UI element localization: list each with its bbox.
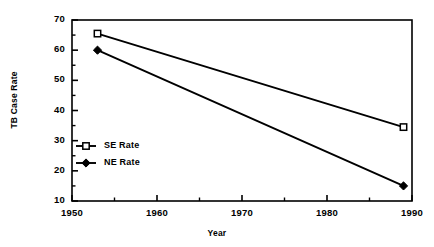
x-tick-label: 1970 <box>220 207 264 218</box>
open-square-marker <box>400 124 406 130</box>
y-tick-label: 60 <box>39 43 65 54</box>
x-tick-label: 1960 <box>135 207 179 218</box>
legend-item-ne-rate: NE Rate <box>104 157 140 167</box>
filled-diamond-marker <box>93 46 101 54</box>
legend-open-square-icon <box>83 143 89 149</box>
y-axis-title: TB Case Rate <box>9 55 19 145</box>
legend-filled-diamond-icon <box>82 159 90 167</box>
x-axis-title: Year <box>0 228 434 238</box>
filled-diamond-marker <box>399 182 407 190</box>
series-line-1 <box>98 34 404 128</box>
chart-title: TB Case Rates <box>0 0 434 1</box>
open-square-marker <box>94 30 100 36</box>
y-tick-label: 70 <box>39 13 65 24</box>
y-tick-label: 20 <box>39 164 65 175</box>
y-tick-label: 10 <box>39 194 65 205</box>
y-tick-label: 50 <box>39 73 65 84</box>
x-tick-label: 1980 <box>305 207 349 218</box>
y-tick-label: 30 <box>39 134 65 145</box>
series-line-2 <box>98 50 404 186</box>
plot-frame <box>72 20 412 201</box>
legend-item-se-rate: SE Rate <box>104 140 139 150</box>
x-tick-label: 1990 <box>390 207 434 218</box>
series-layer <box>93 30 407 190</box>
tb-case-rate-chart: TB Case Rates TB Case Rate Year 10203040… <box>0 0 434 247</box>
y-tick-label: 40 <box>39 104 65 115</box>
legend-layer <box>76 143 96 167</box>
axes-layer <box>72 20 412 201</box>
x-tick-label: 1950 <box>50 207 94 218</box>
